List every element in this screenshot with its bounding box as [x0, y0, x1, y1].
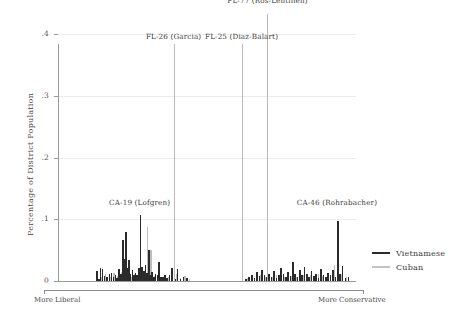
data-spike — [273, 271, 275, 281]
reference-line-fl-77 — [267, 14, 268, 281]
x-direction-label-right: More Conservative — [318, 296, 386, 304]
data-spike — [268, 274, 270, 281]
annotation-label-fl-25: FL-25 (Diaz-Balart) — [205, 31, 278, 40]
data-spike — [337, 221, 339, 281]
legend-swatch-icon — [372, 266, 390, 268]
x-direction-bar — [44, 290, 364, 291]
legend-label: Cuban — [396, 263, 423, 272]
plot-area — [58, 22, 356, 281]
annotation-label-fl-26: FL-26 (Garcia) — [146, 31, 201, 40]
data-spike — [311, 271, 313, 281]
y-tick-label: 0 — [33, 276, 49, 285]
data-spike — [280, 268, 282, 281]
data-spike — [342, 266, 344, 281]
y-tick-label: .2 — [33, 153, 49, 162]
annotation-label-ca-19: CA-19 (Lofgren) — [109, 198, 170, 207]
data-spike — [327, 273, 329, 281]
data-spike — [283, 274, 285, 281]
y-tick-label: .3 — [33, 91, 49, 100]
reference-line-fl-26 — [174, 44, 175, 281]
data-spike — [299, 270, 301, 281]
y-tick-label: .4 — [33, 29, 49, 38]
annotation-label-ca-46: CA-46 (Rohrabacher) — [297, 198, 377, 207]
x-direction-cap-left — [44, 290, 45, 294]
data-spike — [287, 272, 289, 281]
x-axis-line — [58, 281, 356, 282]
data-spike — [339, 274, 341, 281]
legend-item-cuban[interactable]: Cuban — [372, 260, 460, 274]
data-spike — [315, 274, 317, 281]
x-direction-cap-right — [363, 290, 364, 294]
y-axis-label: Percentage of District Population — [26, 93, 35, 236]
legend-item-vietnamese[interactable]: Vietnamese — [372, 246, 460, 260]
annotation-label-fl-77: FL-77 (Ros-Lehtinen) — [227, 0, 307, 5]
y-tick-label: .1 — [33, 214, 49, 223]
chart-canvas: 0.1.2.3.4 Percentage of District Populat… — [0, 0, 463, 320]
data-spike — [294, 274, 296, 281]
chart-legend: VietnameseCuban — [372, 246, 460, 274]
data-spike — [256, 272, 258, 281]
data-spike — [171, 268, 173, 281]
data-spike — [261, 270, 263, 281]
data-spike — [320, 269, 322, 281]
data-spike — [304, 267, 306, 281]
x-direction-label-left: More Liberal — [34, 296, 80, 304]
data-spike — [332, 270, 334, 281]
legend-label: Vietnamese — [396, 249, 445, 258]
data-spike — [177, 269, 179, 281]
reference-line-fl-25 — [242, 44, 243, 281]
legend-swatch-icon — [372, 252, 390, 254]
